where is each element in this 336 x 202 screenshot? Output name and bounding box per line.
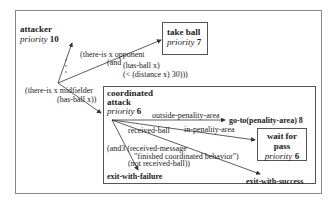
transition-arrows <box>0 0 336 202</box>
condition-received-ball: received-ball <box>128 126 170 135</box>
condition-outside-penality-area: outside-penality-area <box>152 111 220 120</box>
goto-penality-area-action: go-to(penality-area) 8 <box>229 116 303 125</box>
exit-with-success: exit-with-success <box>246 177 303 186</box>
condition-midfielder-2: (has-ball x)) <box>57 95 96 104</box>
goto-priority: 8 <box>299 116 303 125</box>
condition-and3-3: (not received-ball)) <box>128 159 190 168</box>
condition-opponent-3: (has-ball x) <box>123 61 160 70</box>
goto-label: go-to(penality-area) <box>229 116 297 125</box>
condition-opponent-4: (< (distance x) 30))) <box>123 70 188 79</box>
exit-with-failure: exit-with-failure <box>107 172 162 181</box>
condition-in-penality-area: in-penality-area <box>184 125 235 134</box>
condition-opponent-2: (and <box>107 58 121 67</box>
condition-midfielder-1: (there-is x midfielder <box>25 86 93 95</box>
